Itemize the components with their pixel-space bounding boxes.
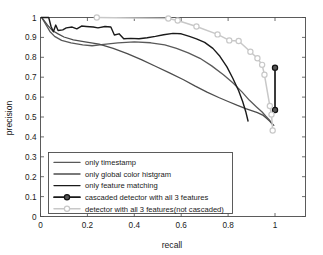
y-axis-label: precision — [4, 101, 14, 136]
precision-recall-figure: 00.20.40.60.81 00.10.20.30.40.50.60.70.8… — [0, 0, 323, 255]
series-3 — [272, 65, 277, 113]
legend-label: detector with all 3 features(not cascade… — [85, 205, 224, 214]
data-point-marker — [272, 65, 277, 70]
data-point-marker — [255, 56, 260, 61]
data-point-marker — [194, 24, 199, 29]
series-line — [42, 18, 273, 125]
data-point-marker — [166, 16, 171, 21]
x-tick-label: 0 — [38, 221, 43, 230]
x-tick-label: 0.2 — [82, 221, 94, 230]
x-tick-label: 0.4 — [129, 221, 141, 230]
chart-canvas: 00.20.40.60.81 00.10.20.30.40.50.60.70.8… — [0, 0, 323, 255]
data-point-marker — [94, 15, 99, 20]
chart-legend: only timestamponly global color histgram… — [49, 153, 233, 214]
data-point-marker — [175, 18, 180, 23]
data-point-marker — [270, 128, 275, 133]
data-point-marker — [269, 112, 274, 117]
data-series-layer — [42, 15, 278, 133]
y-tick-label: 0.4 — [25, 133, 37, 142]
legend-label: only global color histgram — [85, 170, 171, 179]
series-4 — [94, 15, 275, 133]
legend-marker-icon — [64, 195, 69, 200]
data-point-marker — [227, 38, 232, 43]
data-point-marker — [262, 72, 267, 77]
data-point-marker — [272, 107, 277, 112]
y-tick-label: 0.5 — [25, 113, 37, 122]
y-tick-label: 0.2 — [25, 173, 37, 182]
legend-label: only timestamp — [85, 158, 136, 167]
legend-label: cascaded detector with all 3 features — [85, 193, 208, 202]
y-tick-label: 0 — [32, 213, 37, 222]
data-point-marker — [215, 32, 220, 37]
x-tick-label: 0.8 — [222, 221, 234, 230]
legend-label: only feature matching — [85, 181, 158, 190]
x-tick-label: 0.6 — [176, 221, 188, 230]
series-0 — [42, 18, 274, 126]
y-tick-label: 0.9 — [25, 33, 37, 42]
y-tick-label: 1 — [32, 14, 37, 23]
legend-marker-icon — [64, 206, 69, 211]
data-point-marker — [260, 62, 265, 67]
series-1 — [42, 18, 273, 125]
series-line — [42, 18, 274, 126]
x-tick-label: 1 — [273, 221, 278, 230]
data-point-marker — [267, 103, 272, 108]
data-point-marker — [248, 49, 253, 54]
y-tick-label: 0.7 — [25, 73, 37, 82]
y-tick-label: 0.3 — [25, 153, 37, 162]
y-tick-label: 0.6 — [25, 93, 37, 102]
x-axis-label: recall — [162, 240, 183, 250]
data-point-marker — [236, 38, 241, 43]
y-tick-label: 0.8 — [25, 53, 37, 62]
y-tick-label: 0.1 — [25, 193, 37, 202]
